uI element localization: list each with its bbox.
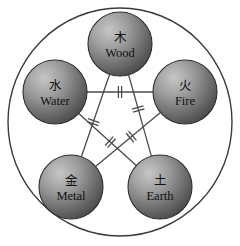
element-node-metal[interactable]: 金Metal — [39, 155, 103, 219]
han-label-wood: 木 — [114, 30, 127, 45]
han-label-fire: 火 — [179, 78, 192, 93]
element-node-water[interactable]: 水Water — [23, 60, 87, 124]
en-label-wood: Wood — [105, 46, 135, 60]
wuxing-diagram: 木Wood火Fire土Earth金Metal水Water — [0, 0, 240, 246]
han-label-metal: 金 — [65, 173, 78, 188]
wuxing-svg: 木Wood火Fire土Earth金Metal水Water — [0, 0, 240, 246]
restraining-line-wood-earth — [129, 75, 152, 156]
han-label-earth: 土 — [154, 173, 167, 188]
restraining-edge-layer — [79, 74, 161, 166]
element-node-layer: 木Wood火Fire土Earth金Metal水Water — [23, 12, 217, 219]
han-label-water: 水 — [49, 78, 62, 93]
element-node-wood[interactable]: 木Wood — [88, 12, 152, 76]
en-label-metal: Metal — [56, 189, 86, 203]
en-label-fire: Fire — [175, 94, 196, 108]
inhibition-bar-2 — [126, 133, 134, 142]
en-label-water: Water — [40, 94, 70, 108]
element-node-fire[interactable]: 火Fire — [153, 60, 217, 124]
inhibition-bar-1 — [129, 131, 137, 140]
element-node-earth[interactable]: 土Earth — [128, 155, 192, 219]
en-label-earth: Earth — [146, 189, 174, 203]
